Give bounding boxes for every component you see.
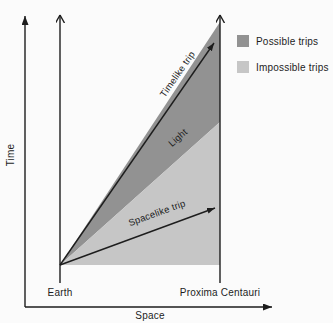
impossible-trips-region — [60, 122, 220, 265]
impossible-trips-legend-label: Impossible trips — [256, 62, 329, 73]
possible-trips-swatch — [237, 35, 249, 47]
space-axis-label: Space — [135, 310, 165, 321]
spacetime-diagram: Time Space Earth Proxima Centauri Timeli… — [0, 0, 333, 323]
impossible-trips-swatch — [237, 61, 249, 73]
earth-label: Earth — [48, 287, 73, 298]
possible-trips-legend-label: Possible trips — [256, 36, 318, 47]
proxima-centauri-label: Proxima Centauri — [180, 287, 260, 298]
time-axis-label: Time — [5, 143, 16, 166]
legend: Possible trips Impossible trips — [237, 35, 329, 73]
